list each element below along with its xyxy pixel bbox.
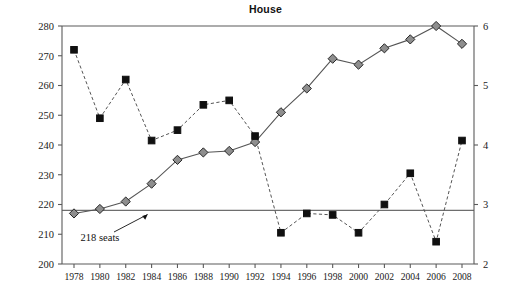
x-tick-label: 1990: [220, 271, 239, 282]
data-point-marker: [122, 76, 129, 83]
annotations-group: 218 seats: [81, 214, 148, 243]
left-tick-label: 200: [38, 259, 54, 270]
series-markers-group: [69, 21, 466, 245]
data-point-marker: [355, 229, 362, 236]
data-point-marker: [226, 97, 233, 104]
x-tick-label: 1992: [245, 271, 264, 282]
data-point-marker: [95, 204, 104, 213]
x-tick-label: 2002: [375, 271, 394, 282]
x-tick-label: 2008: [452, 271, 471, 282]
left-tick-label: 210: [38, 229, 54, 240]
x-tick-label: 1998: [323, 271, 342, 282]
x-tick-label: 1980: [90, 271, 109, 282]
right-axis-ticks: 23456: [474, 21, 489, 270]
x-tick-label: 2004: [401, 271, 420, 282]
right-tick-label: 4: [483, 140, 489, 151]
x-tick-label: 2000: [349, 271, 368, 282]
x-tick-label: 1988: [194, 271, 213, 282]
right-tick-label: 3: [483, 199, 488, 210]
data-point-marker: [252, 133, 259, 140]
data-point-marker: [71, 47, 78, 54]
axes-group: [62, 26, 474, 264]
left-tick-label: 240: [38, 140, 54, 151]
right-tick-label: 5: [483, 80, 488, 91]
annotation-arrow-icon: [114, 214, 148, 232]
data-point-marker: [432, 21, 441, 30]
x-tick-label: 1986: [168, 271, 187, 282]
data-point-marker: [148, 137, 155, 144]
data-point-marker: [199, 148, 208, 157]
left-tick-label: 250: [38, 110, 54, 121]
x-tick-label: 1996: [297, 271, 316, 282]
left-tick-label: 220: [38, 199, 54, 210]
x-tick-label: 2006: [427, 271, 446, 282]
left-tick-label: 230: [38, 170, 54, 181]
data-point-marker: [304, 210, 311, 217]
x-axis-ticks: 1978198019821984198619881990199219941996…: [64, 264, 471, 282]
left-tick-label: 270: [38, 51, 54, 62]
left-tick-label: 260: [38, 80, 54, 91]
data-point-marker: [381, 201, 388, 208]
right-tick-label: 6: [483, 21, 488, 32]
data-point-marker: [406, 35, 415, 44]
x-tick-label: 1984: [142, 271, 161, 282]
x-tick-label: 1978: [64, 271, 83, 282]
left-tick-label: 280: [38, 21, 54, 32]
data-point-marker: [200, 102, 207, 109]
x-tick-label: 1994: [271, 271, 290, 282]
data-point-marker: [97, 115, 104, 122]
square-series-line: [74, 50, 462, 242]
data-point-marker: [433, 238, 440, 245]
chart-container: House 200210220230240250260270280 23456 …: [0, 0, 531, 296]
data-point-marker: [457, 39, 466, 48]
data-point-marker: [225, 146, 234, 155]
data-point-marker: [278, 229, 285, 236]
x-tick-label: 1982: [116, 271, 135, 282]
data-point-marker: [329, 212, 336, 219]
data-point-marker: [121, 197, 130, 206]
data-point-marker: [380, 44, 389, 53]
data-point-marker: [174, 127, 181, 134]
chart-plot-area: 200210220230240250260270280 23456 197819…: [0, 0, 531, 296]
series-lines-group: [74, 26, 462, 242]
data-point-marker: [459, 137, 466, 144]
data-point-marker: [407, 170, 414, 177]
left-axis-ticks: 200210220230240250260270280: [38, 21, 62, 270]
annotation-label: 218 seats: [81, 232, 120, 243]
right-tick-label: 2: [483, 259, 488, 270]
data-point-marker: [354, 60, 363, 69]
